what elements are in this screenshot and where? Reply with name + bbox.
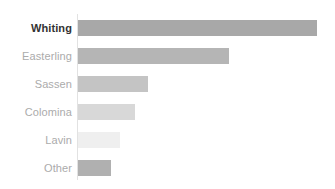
- bar-track: [78, 126, 335, 154]
- bar-track: [78, 70, 335, 98]
- bar-label-colomina: Colomina: [0, 98, 72, 126]
- bar-track: [78, 98, 335, 126]
- bar-colomina: [78, 104, 135, 120]
- bar-row: Colomina: [0, 98, 335, 126]
- plot-area: WhitingEasterlingSassenColominaLavinOthe…: [0, 0, 335, 189]
- bar-chart: WhitingEasterlingSassenColominaLavinOthe…: [0, 0, 335, 189]
- bar-label-other: Other: [0, 154, 72, 182]
- bar-label-lavin: Lavin: [0, 126, 72, 154]
- bar-label-easterling: Easterling: [0, 42, 72, 70]
- bar-sassen: [78, 76, 148, 92]
- bar-easterling: [78, 48, 229, 64]
- bar-label-whiting: Whiting: [0, 14, 72, 42]
- bar-track: [78, 14, 335, 42]
- bar-label-sassen: Sassen: [0, 70, 72, 98]
- bar-row: Other: [0, 154, 335, 182]
- bar-track: [78, 154, 335, 182]
- bar-other: [78, 160, 111, 176]
- bar-row: Lavin: [0, 126, 335, 154]
- bar-track: [78, 42, 335, 70]
- bar-whiting: [78, 20, 317, 36]
- bar-lavin: [78, 132, 120, 148]
- bar-row: Sassen: [0, 70, 335, 98]
- bar-row: Whiting: [0, 14, 335, 42]
- bar-row: Easterling: [0, 42, 335, 70]
